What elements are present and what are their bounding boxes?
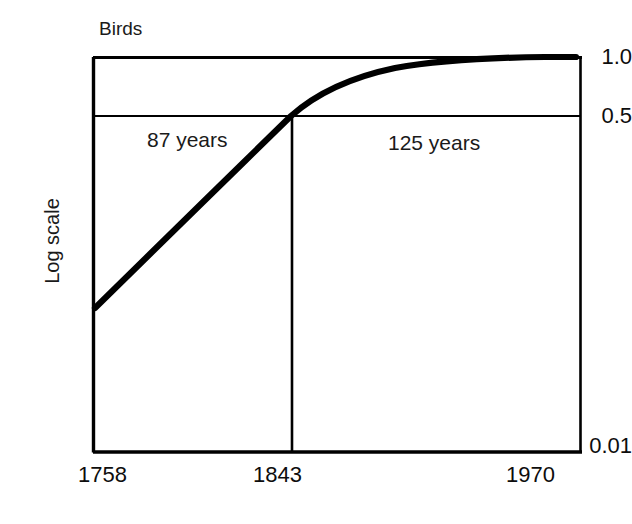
chart-figure: Birds Log scale 1.0 0.5 0.01 1758 1843 1… bbox=[0, 0, 632, 524]
plot-area bbox=[0, 0, 632, 524]
data-curve bbox=[95, 57, 576, 308]
